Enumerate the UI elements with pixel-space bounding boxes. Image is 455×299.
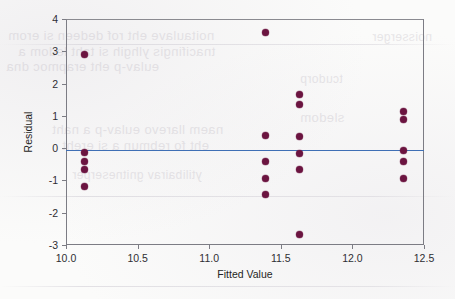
y-tick-label: 4: [36, 13, 58, 25]
y-tick-label: 0: [36, 142, 58, 154]
y-tick: [62, 213, 66, 214]
data-point: [81, 149, 88, 156]
x-tick-label: 12.0: [342, 252, 362, 264]
data-point: [81, 166, 88, 173]
x-tick-label: 10.5: [127, 252, 147, 264]
x-tick-label: 12.5: [414, 252, 434, 264]
y-tick-label: -3: [36, 239, 58, 251]
data-point: [296, 91, 303, 98]
y-tick: [62, 148, 66, 149]
zero-reference-line: [66, 150, 424, 151]
y-tick: [62, 245, 66, 246]
plot-frame: [66, 19, 424, 245]
y-axis-title: Residual: [22, 112, 34, 153]
x-tick: [138, 245, 139, 249]
data-point: [81, 158, 88, 165]
x-tick: [66, 245, 67, 249]
data-point: [262, 191, 269, 198]
data-point: [296, 150, 303, 157]
y-tick-label: 3: [36, 45, 58, 57]
y-tick-label: -1: [36, 174, 58, 186]
x-tick: [281, 245, 282, 249]
x-tick: [424, 245, 425, 249]
data-point: [262, 158, 269, 165]
data-point: [296, 101, 303, 108]
x-tick: [209, 245, 210, 249]
data-point: [262, 175, 269, 182]
y-tick-label: -2: [36, 207, 58, 219]
data-point: [262, 29, 269, 36]
x-tick-label: 11.5: [271, 252, 291, 264]
data-point: [262, 132, 269, 139]
x-tick: [352, 245, 353, 249]
y-tick-label: 2: [36, 78, 58, 90]
data-point: [81, 183, 88, 190]
y-tick: [62, 19, 66, 20]
y-tick: [62, 84, 66, 85]
y-tick-label: 1: [36, 110, 58, 122]
x-tick-label: 10.0: [56, 252, 76, 264]
y-tick: [62, 180, 66, 181]
x-axis-title: Fitted Value: [217, 268, 272, 280]
y-tick: [62, 51, 66, 52]
y-tick: [62, 116, 66, 117]
residual-plot-figure: 10.010.511.011.512.012.5 -3-2-101234 Fit…: [0, 0, 455, 299]
x-tick-label: 11.0: [199, 252, 219, 264]
